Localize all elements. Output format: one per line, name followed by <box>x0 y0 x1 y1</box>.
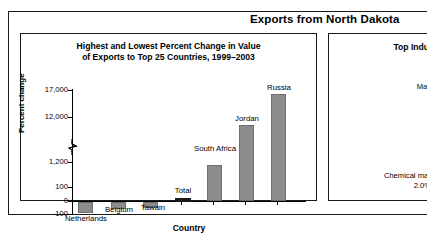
pie-label-other-value: 9.4 <box>369 148 427 158</box>
chart-panel: Highest and Lowest Percent Change in Val… <box>20 33 317 201</box>
industry-panel-title: Top Industry Gro <box>329 42 427 52</box>
pie-label-chemical-value: 2.0% <box>307 181 427 191</box>
y-tick-100 <box>68 187 73 188</box>
y-axis-title: Percent change <box>17 73 26 133</box>
y-tick-label-1200: 1,200 <box>20 157 68 166</box>
y-tick-label-0: 0 <box>20 196 68 205</box>
pie-label-chemical-manufacturing: Chemical manufa <box>319 171 427 181</box>
bar-russia <box>271 94 286 201</box>
x-tick-7 <box>277 201 278 205</box>
bar-label-tawain: Tawain <box>131 203 175 212</box>
y-tick-12000 <box>68 117 73 118</box>
y-tick-17000 <box>68 90 73 91</box>
y-tick-label-17000: 17,000 <box>20 85 68 94</box>
page-root: Exports from North Dakota Highest and Lo… <box>0 0 427 233</box>
bar-netherlands <box>78 202 93 213</box>
pie-label-machinery: Machi <box>357 82 427 92</box>
bar-label-total: Total <box>160 186 206 195</box>
y-tick-0 <box>68 201 73 202</box>
bar-label-russia: Russia <box>256 83 302 92</box>
bar-south-africa <box>207 165 222 201</box>
y-tick-label-100: 100 <box>20 182 68 191</box>
plot-area: Percent change 17,000 12,000 <box>21 34 316 200</box>
bar-jordan <box>239 125 254 201</box>
bar-total <box>175 198 191 202</box>
x-axis-title: Country <box>72 223 306 233</box>
bar-label-south-africa: South Africa <box>189 144 241 153</box>
bar-label-jordan: Jordan <box>224 114 270 123</box>
y-tick-label-12000: 12,000 <box>20 112 68 121</box>
y-tick-1200 <box>68 162 73 163</box>
industry-panel: Top Industry Gro Machi Oth 9.4 Chemical … <box>328 33 427 201</box>
axis-break-icon <box>66 139 80 159</box>
x-tick-6 <box>245 201 246 205</box>
bar-label-netherlands: Netherlands <box>51 214 121 223</box>
x-tick-5 <box>213 201 214 205</box>
page-title: Exports from North Dakota <box>250 13 427 25</box>
